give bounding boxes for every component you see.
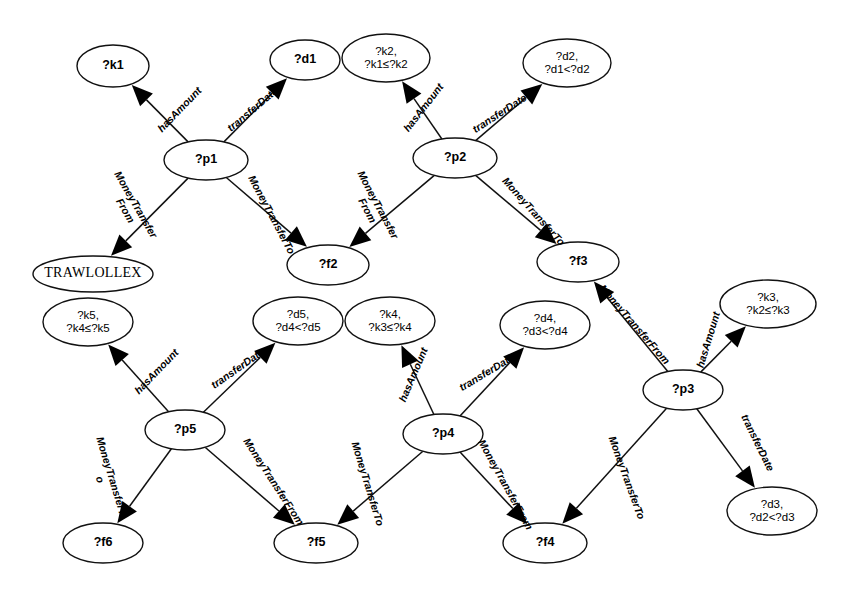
node-label-p3: ?p3 bbox=[672, 382, 694, 396]
node-label-trawlollex: TRAWLOLLEX bbox=[44, 265, 142, 280]
node-d1[interactable]: ?d1 bbox=[270, 40, 340, 80]
node-k4[interactable]: ?k4,?k3≤?k4 bbox=[345, 297, 435, 345]
node-d5[interactable]: ?d5,?d4<?d5 bbox=[253, 297, 343, 345]
node-label-d3: ?d2<?d3 bbox=[749, 511, 794, 523]
edge-label-e1: hasAmount bbox=[155, 84, 204, 134]
graph-diagram-canvas: ?k1?d1?k2,?k1≤?k2?d2,?d1<?d2?p1?p2TRAWLO… bbox=[0, 0, 844, 590]
edge-label-e16: MoneyTransferFrom bbox=[241, 436, 306, 528]
svg-text:MoneyTransferTo: MoneyTransferTo bbox=[500, 175, 568, 249]
node-f6[interactable]: ?f6 bbox=[63, 523, 143, 563]
svg-text:hasAmount: hasAmount bbox=[155, 84, 204, 134]
node-p4[interactable]: ?p4 bbox=[403, 414, 483, 454]
node-label-d4: ?d3<?d4 bbox=[522, 325, 568, 337]
node-label-p4: ?p4 bbox=[432, 426, 454, 440]
edge-label-e2: transferDate bbox=[225, 84, 280, 133]
node-label-k5: ?k5, bbox=[77, 309, 99, 321]
node-k3[interactable]: ?k3,?k2≤?k3 bbox=[720, 280, 816, 328]
edge-label-e7: MoneyTransferFrom bbox=[345, 169, 402, 247]
node-label-p2: ?p2 bbox=[444, 150, 466, 164]
node-label-k3: ?k2≤?k3 bbox=[746, 304, 789, 316]
edge-label-e14: transferDate bbox=[209, 345, 267, 390]
edge-label-e15: MoneyTransferTo bbox=[83, 435, 130, 521]
node-label-k2: ?k2, bbox=[375, 45, 397, 57]
node-p2[interactable]: ?p2 bbox=[413, 138, 497, 178]
edge-p5-to-k5 bbox=[108, 345, 168, 412]
edge-p3-to-f4 bbox=[562, 408, 666, 524]
node-f2[interactable]: ?f2 bbox=[287, 245, 369, 285]
edge-label-e12: MoneyTransferTo bbox=[607, 434, 648, 521]
node-label-k3: ?k3, bbox=[757, 291, 779, 303]
node-d2[interactable]: ?d2,?d1<?d2 bbox=[523, 39, 611, 87]
svg-text:o: o bbox=[94, 475, 108, 485]
node-label-k1: ?k1 bbox=[102, 58, 124, 72]
edge-label-e4: MoneyTransferTo bbox=[246, 173, 298, 256]
node-k5[interactable]: ?k5,?k4≤?k5 bbox=[43, 298, 133, 346]
svg-text:MoneyTransferTo: MoneyTransferTo bbox=[607, 434, 648, 521]
svg-text:MoneyTransferFrom: MoneyTransferFrom bbox=[476, 437, 536, 531]
node-k2[interactable]: ?k2,?k1≤?k2 bbox=[342, 34, 430, 82]
svg-text:hasAmount: hasAmount bbox=[132, 346, 181, 396]
node-label-d5: ?d5, bbox=[287, 308, 309, 320]
node-f5[interactable]: ?f5 bbox=[274, 523, 358, 563]
node-label-k2: ?k1≤?k2 bbox=[364, 58, 407, 70]
node-d3[interactable]: ?d3,?d2<?d3 bbox=[727, 487, 817, 535]
node-f3[interactable]: ?f3 bbox=[537, 242, 619, 282]
graph-pattern-svg: ?k1?d1?k2,?k1≤?k2?d2,?d1<?d2?p1?p2TRAWLO… bbox=[0, 0, 844, 590]
node-label-d5: ?d4<?d5 bbox=[275, 321, 320, 333]
edge-label-e9: MoneyTransferFrom bbox=[597, 282, 673, 366]
node-label-f5: ?f5 bbox=[307, 535, 326, 549]
node-label-d2: ?d1<?d2 bbox=[544, 63, 589, 75]
svg-text:transferDate: transferDate bbox=[739, 412, 777, 473]
node-trawlollex[interactable]: TRAWLOLLEX bbox=[33, 256, 153, 292]
svg-text:MoneyTransferFrom: MoneyTransferFrom bbox=[597, 282, 673, 366]
node-label-k5: ?k4≤?k5 bbox=[66, 322, 109, 334]
node-p5[interactable]: ?p5 bbox=[145, 410, 225, 450]
node-label-d3: ?d3, bbox=[761, 498, 783, 510]
svg-text:transferDate: transferDate bbox=[470, 91, 529, 135]
svg-text:MoneyTransferFrom: MoneyTransferFrom bbox=[241, 436, 306, 528]
svg-text:MoneyTransferTo: MoneyTransferTo bbox=[246, 173, 298, 256]
edge-label-e20: MoneyTransferFrom bbox=[476, 437, 536, 531]
node-label-k4: ?k3≤?k4 bbox=[368, 321, 412, 333]
node-f4[interactable]: ?f4 bbox=[503, 523, 587, 563]
node-label-f6: ?f6 bbox=[94, 535, 113, 549]
node-label-d1: ?d1 bbox=[294, 52, 316, 66]
node-d4[interactable]: ?d4,?d3<?d4 bbox=[500, 301, 590, 349]
node-label-f2: ?f2 bbox=[319, 257, 338, 271]
edge-label-e11: transferDate bbox=[739, 412, 777, 473]
node-p1[interactable]: ?p1 bbox=[164, 140, 248, 180]
node-label-p5: ?p5 bbox=[174, 422, 196, 436]
edge-label-e6: transferDate bbox=[470, 91, 529, 135]
svg-text:hasAmount: hasAmount bbox=[694, 310, 723, 369]
svg-text:transferDate: transferDate bbox=[209, 345, 267, 390]
node-label-k4: ?k4, bbox=[379, 308, 401, 320]
node-label-f4: ?f4 bbox=[536, 535, 555, 549]
node-label-f3: ?f3 bbox=[569, 254, 588, 268]
edge-label-e13: hasAmount bbox=[132, 346, 181, 396]
edge-label-e8: MoneyTransferTo bbox=[500, 175, 568, 249]
node-label-p1: ?p1 bbox=[195, 152, 217, 166]
svg-text:transferDate: transferDate bbox=[225, 84, 280, 133]
edge-label-e10: hasAmount bbox=[694, 310, 723, 369]
node-label-d4: ?d4, bbox=[534, 312, 556, 324]
node-p3[interactable]: ?p3 bbox=[643, 370, 723, 410]
node-k1[interactable]: ?k1 bbox=[77, 45, 149, 87]
node-label-d2: ?d2, bbox=[556, 50, 578, 62]
